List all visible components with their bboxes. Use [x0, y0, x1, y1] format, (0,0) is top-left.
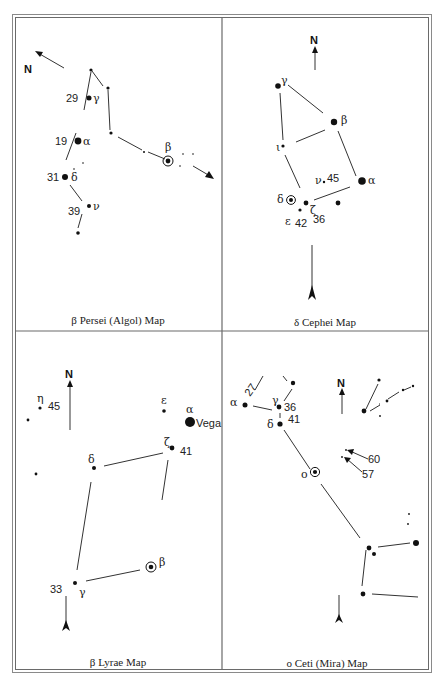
svg-text:γ: γ	[272, 394, 279, 407]
map-caption: δ Cephei Map	[294, 316, 357, 328]
south-arrow-icon	[335, 595, 343, 623]
svg-text:ν: ν	[315, 174, 322, 187]
svg-text:ε: ε	[161, 394, 167, 407]
svg-text:33: 33	[50, 583, 62, 595]
svg-text:δ: δ	[88, 453, 95, 466]
svg-text:N: N	[310, 34, 318, 46]
svg-text:19: 19	[55, 135, 67, 147]
svg-text:γ: γ	[281, 74, 288, 87]
panel-delta-cephei: N γ β ι ν 45 α δ ε 42 ζ 36 δ	[275, 34, 376, 328]
svg-text:N: N	[65, 368, 73, 380]
svg-text:α: α	[83, 135, 91, 148]
svg-text:57: 57	[362, 468, 374, 480]
svg-text:ι: ι	[276, 141, 280, 154]
svg-text:41: 41	[180, 445, 192, 457]
svg-text:δ: δ	[277, 193, 284, 206]
north-label: N	[24, 63, 32, 75]
svg-text:δ: δ	[267, 418, 274, 431]
svg-text:γ: γ	[79, 586, 86, 599]
svg-text:α: α	[230, 396, 238, 409]
south-arrow-icon	[308, 245, 316, 300]
svg-text:41: 41	[288, 413, 300, 425]
north-arrow-icon	[339, 388, 345, 414]
svg-text:η: η	[37, 392, 44, 405]
south-arrow-icon	[193, 166, 214, 179]
svg-text:45: 45	[327, 172, 339, 184]
svg-text:ζ: ζ	[164, 436, 170, 449]
panel-omicron-ceti: N	[230, 376, 419, 670]
map-caption: o Ceti (Mira) Map	[287, 657, 368, 670]
north-arrow-icon	[35, 51, 64, 68]
svg-text:29: 29	[66, 92, 78, 104]
svg-text:β: β	[159, 556, 165, 569]
svg-text:N: N	[337, 377, 345, 389]
svg-text:27: 27	[242, 381, 259, 398]
north-arrow-icon	[67, 380, 73, 430]
panel-beta-persei: N 29 γ 19 α 31	[24, 51, 214, 327]
svg-text:36: 36	[284, 401, 296, 413]
south-arrow-icon	[62, 596, 70, 631]
svg-text:o: o	[301, 468, 308, 481]
svg-text:36: 36	[313, 213, 325, 225]
svg-text:31: 31	[47, 171, 59, 183]
north-arrow-icon	[312, 46, 318, 70]
panel-beta-lyrae: N η 45 ε α Vega ζ 41 δ β 33 γ β Lyrae	[27, 368, 222, 668]
svg-text:39: 39	[68, 205, 80, 217]
svg-text:ν: ν	[93, 200, 100, 213]
svg-text:β: β	[341, 114, 347, 127]
svg-text:β: β	[165, 141, 171, 154]
svg-text:42: 42	[295, 217, 307, 229]
svg-text:α: α	[186, 403, 194, 416]
svg-text:ε: ε	[285, 215, 291, 228]
svg-text:60: 60	[368, 453, 380, 465]
svg-text:γ: γ	[93, 92, 100, 105]
svg-text:δ: δ	[71, 171, 78, 184]
svg-text:Vega: Vega	[196, 417, 222, 429]
map-caption: β Persei (Algol) Map	[71, 314, 165, 327]
map-caption: β Lyrae Map	[90, 656, 147, 668]
svg-text:45: 45	[48, 400, 60, 412]
svg-text:α: α	[368, 174, 376, 187]
